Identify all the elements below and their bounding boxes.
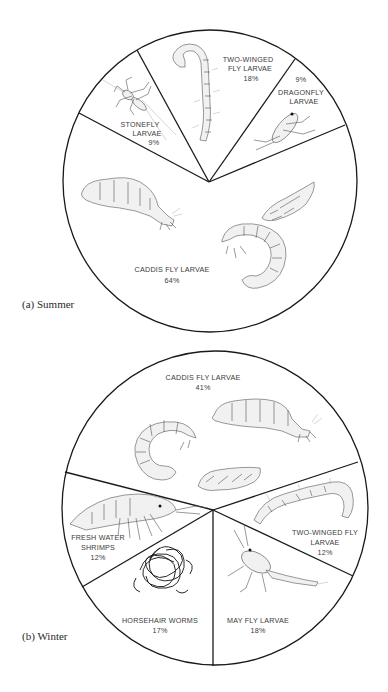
- summer-twowinged-label: TWO-WINGED: [223, 55, 274, 64]
- summer-stonefly-label-line2: LARVAE: [133, 129, 162, 138]
- summer-stonefly-pct: 9%: [149, 138, 160, 147]
- summer-caddis-label: CADDIS FLY LARVAE: [135, 265, 210, 274]
- summer-twowinged-label-line2: FLY LARVAE: [228, 64, 272, 73]
- winter-pie-chart: CADDIS FLY LARVAE 41% FRESH WATER SHRIMP…: [22, 351, 368, 666]
- winter-caddis-larva-curled-illustration: [135, 420, 196, 480]
- summer-dragonfly-label: DRAGONFLY: [278, 88, 324, 97]
- winter-shrimp-pct: 12%: [91, 553, 106, 562]
- summer-pie-chart: STONEFLY LARVAE 9% TWO-WINGED FLY LARVAE…: [22, 30, 357, 332]
- winter-horsehair-pct: 17%: [153, 626, 168, 635]
- two-winged-fly-larva-illustration: [173, 44, 220, 141]
- winter-caddis-case-illustration: [198, 467, 260, 490]
- horsehair-worms-illustration: [134, 547, 193, 593]
- summer-stonefly-label: STONEFLY: [121, 120, 160, 129]
- winter-caddis-pct: 41%: [196, 383, 211, 392]
- winter-mayfly-pct: 18%: [251, 626, 266, 635]
- caddis-larva-straight-illustration: [82, 178, 183, 230]
- winter-shrimp-label-line2: SHRIMPS: [81, 543, 115, 552]
- winter-caddis-label: CADDIS FLY LARVAE: [166, 373, 241, 382]
- summer-dragonfly-label-line2: LARVAE: [290, 97, 319, 106]
- winter-twowinged-pct: 12%: [318, 548, 333, 557]
- winter-shrimp-label: FRESH WATER: [71, 533, 125, 542]
- winter-twowinged-label: TWO-WINGED FLY: [292, 528, 358, 537]
- winter-two-winged-fly-larva-illustration: [254, 478, 353, 524]
- winter-caption: (b) Winter: [22, 630, 68, 643]
- dragonfly-larva-illustration: [254, 110, 315, 150]
- summer-dragonfly-pct: 9%: [296, 75, 307, 84]
- winter-mayfly-label: MAY FLY LARVAE: [227, 616, 289, 625]
- summer-caption: (a) Summer: [22, 298, 75, 311]
- summer-twowinged-pct: 18%: [244, 74, 259, 83]
- winter-horsehair-label: HORSEHAIR WORMS: [122, 616, 198, 625]
- winter-caddis-larva-straight-illustration: [212, 399, 322, 442]
- caddis-larva-curled-illustration: [222, 224, 286, 289]
- caddis-case-illustration: [262, 182, 314, 221]
- summer-caddis-pct: 64%: [165, 276, 180, 285]
- figure: STONEFLY LARVAE 9% TWO-WINGED FLY LARVAE…: [0, 0, 388, 692]
- winter-twowinged-label-line2: LARVAE: [311, 538, 340, 547]
